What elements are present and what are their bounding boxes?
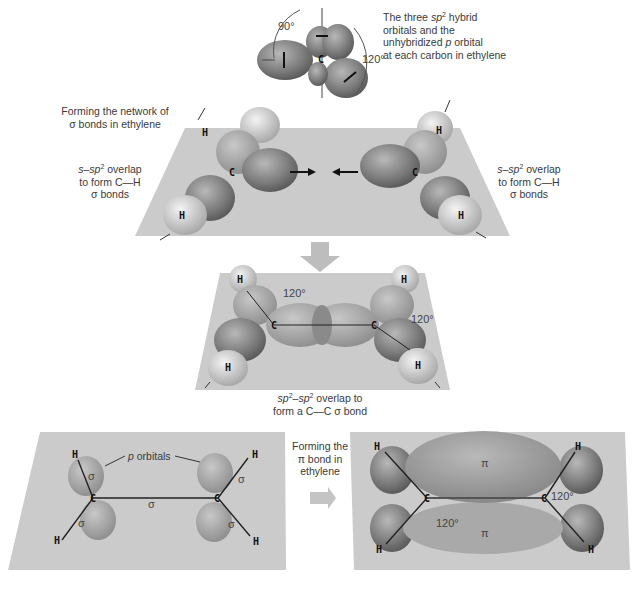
svg-text:σ: σ [78, 517, 85, 529]
angle-label: 120° [362, 53, 385, 65]
svg-text:H: H [253, 536, 259, 547]
svg-text:H: H [374, 441, 380, 452]
top-caption: The three sp2 hybrid orbitals and the un… [383, 11, 543, 61]
angle-label: 120° [283, 287, 306, 299]
single-carbon-orbitals: C [257, 8, 368, 98]
svg-text:H: H [575, 441, 581, 452]
svg-text:120°: 120° [551, 490, 574, 502]
pi-bond-title: Forming the π bond in ethylene [288, 440, 352, 478]
svg-text:π: π [481, 457, 489, 469]
s-sp2-overlap-right: s–sp2 overlap to form C—H σ bonds [494, 163, 564, 201]
svg-text:H: H [376, 544, 382, 555]
svg-text:σ: σ [228, 518, 235, 530]
atom-c-left: C [229, 167, 235, 178]
svg-text:C: C [541, 493, 547, 504]
svg-text:120°: 120° [436, 517, 459, 529]
svg-text:H: H [72, 449, 78, 460]
atom-h: H [458, 210, 464, 221]
svg-text:π: π [481, 527, 489, 539]
carbon-label: C [318, 54, 324, 65]
p-orbitals-label: p orbitals [128, 450, 171, 463]
svg-text:H: H [225, 362, 231, 373]
svg-text:σ: σ [238, 473, 245, 485]
svg-text:C: C [424, 493, 430, 504]
diagram-canvas: C C C H H H H [0, 0, 642, 589]
cc-sigma-plane: C C H H H H 120° 120° [195, 265, 450, 390]
atom-h: H [179, 210, 185, 221]
svg-text:H: H [252, 449, 258, 460]
svg-text:H: H [237, 274, 243, 285]
sigma-network-plane: C C H H H H [135, 100, 510, 240]
down-arrow-icon [300, 242, 340, 272]
angle-label: 120° [411, 313, 434, 325]
svg-text:σ: σ [88, 470, 95, 482]
svg-text:H: H [588, 544, 594, 555]
pi-bond-plane: C C H H H H π π 120° 120° [350, 431, 630, 570]
atom-h: H [202, 127, 208, 138]
s-sp2-overlap-left: s–sp2 overlap to form C—H σ bonds [75, 163, 145, 201]
cc-sigma-caption: sp2–sp2 overlap to form a C—C σ bond [250, 392, 390, 417]
svg-text:C: C [214, 493, 220, 504]
angle-label: 90° [278, 20, 295, 32]
svg-text:σ: σ [148, 498, 155, 510]
svg-text:C: C [371, 320, 377, 331]
atom-h: H [436, 125, 442, 136]
svg-text:C: C [90, 493, 96, 504]
svg-text:H: H [415, 360, 421, 371]
atom-c-right: C [412, 167, 418, 178]
svg-text:H: H [401, 274, 407, 285]
right-arrow-icon [310, 487, 336, 509]
sigma-network-title: Forming the network of σ bonds in ethyle… [55, 105, 175, 130]
svg-text:H: H [54, 535, 60, 546]
svg-text:C: C [271, 320, 277, 331]
